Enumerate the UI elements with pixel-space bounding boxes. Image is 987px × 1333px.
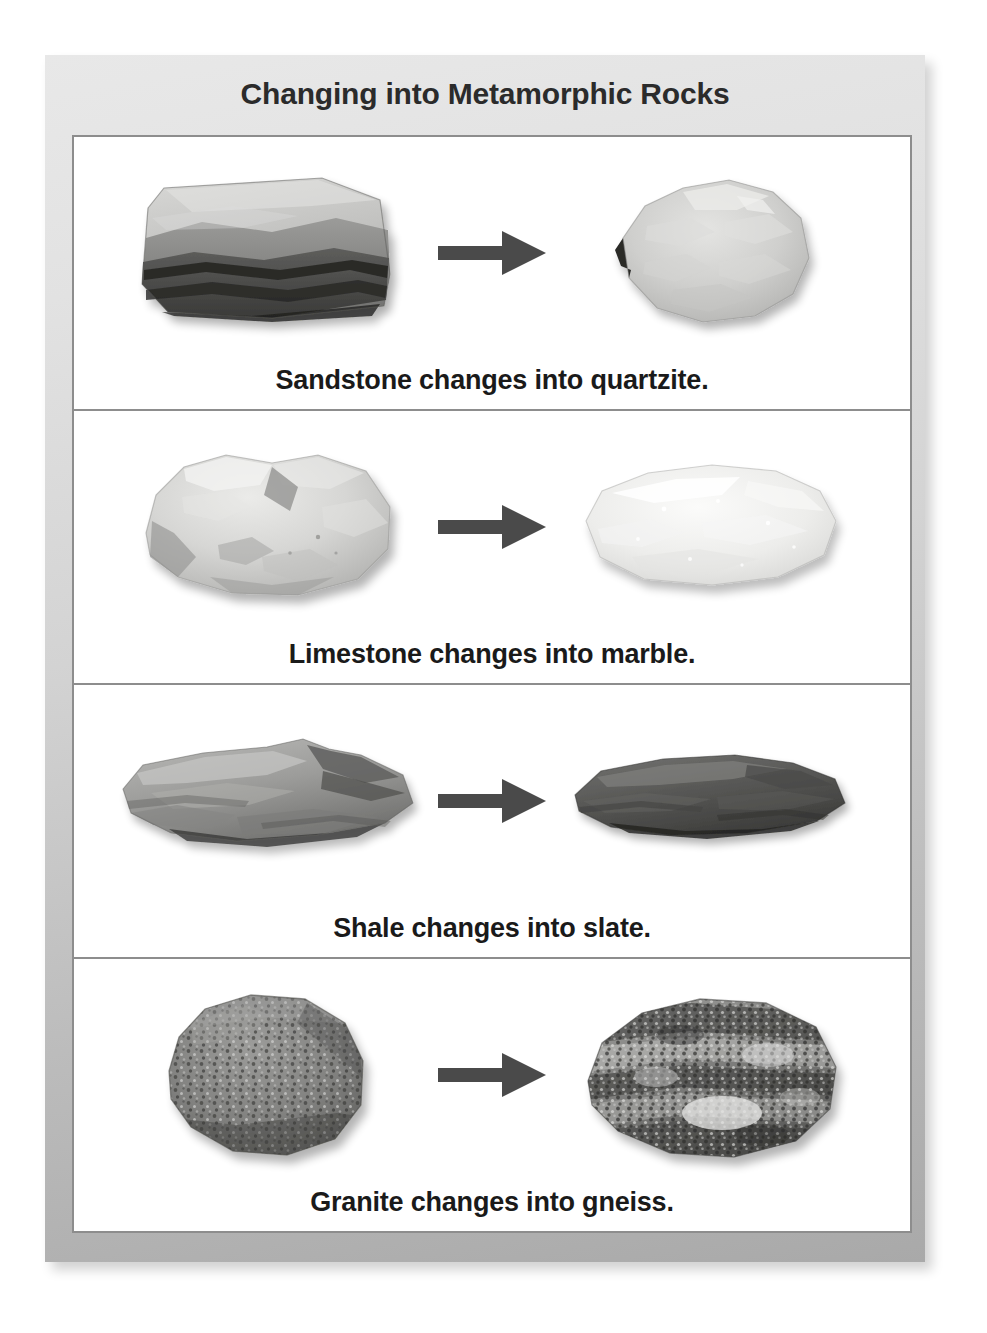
rock-image-granite — [112, 985, 432, 1165]
right-arrow-icon — [436, 225, 548, 281]
specimen-strip — [74, 137, 910, 365]
arrow-cell — [432, 225, 552, 281]
row-caption: Limestone changes into marble. — [74, 639, 910, 683]
rock-image-gneiss — [552, 985, 872, 1165]
rock-transformation-table: Sandstone changes into quartzite. — [72, 135, 912, 1233]
rock-image-sandstone — [112, 163, 432, 343]
table-row: Shale changes into slate. — [74, 685, 910, 959]
arrow-cell — [432, 1047, 552, 1103]
arrow-cell — [432, 773, 552, 829]
row-caption: Shale changes into slate. — [74, 913, 910, 957]
page-title: Changing into Metamorphic Rocks — [45, 77, 925, 111]
specimen-strip — [74, 685, 910, 913]
right-arrow-icon — [436, 1047, 548, 1103]
rock-image-slate — [552, 711, 872, 891]
rock-image-shale — [112, 711, 432, 891]
table-row: Granite changes into gneiss. — [74, 959, 910, 1231]
rock-image-limestone — [112, 437, 432, 617]
figure-frame: Changing into Metamorphic Rocks — [45, 55, 925, 1262]
row-caption: Sandstone changes into quartzite. — [74, 365, 910, 409]
right-arrow-icon — [436, 773, 548, 829]
rock-image-quartzite — [552, 163, 872, 343]
specimen-strip — [74, 959, 910, 1187]
arrow-cell — [432, 499, 552, 555]
row-caption: Granite changes into gneiss. — [74, 1187, 910, 1231]
table-row: Limestone changes into marble. — [74, 411, 910, 685]
right-arrow-icon — [436, 499, 548, 555]
specimen-strip — [74, 411, 910, 639]
rock-image-marble — [552, 437, 872, 617]
table-row: Sandstone changes into quartzite. — [74, 137, 910, 411]
